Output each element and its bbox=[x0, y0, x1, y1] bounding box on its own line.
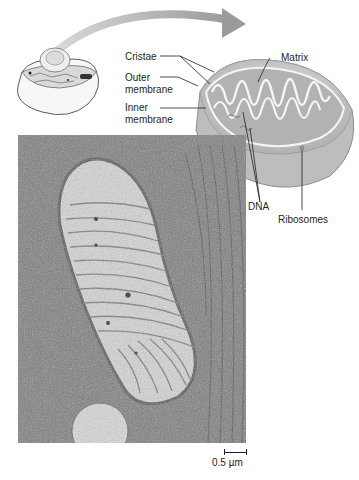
cristae-label: Cristae bbox=[125, 51, 157, 63]
outer-membrane-label-line1: Outer bbox=[125, 72, 150, 84]
inner-membrane-label-line1: Inner bbox=[125, 102, 148, 114]
electron-micrograph bbox=[18, 135, 246, 443]
scale-bar-label: 0.5 µm bbox=[212, 457, 243, 468]
inner-membrane-label-line2: membrane bbox=[125, 114, 173, 126]
dna-label: DNA bbox=[248, 201, 269, 213]
cell-illustration-icon bbox=[18, 48, 99, 115]
scale-bar-tick-left bbox=[224, 449, 225, 455]
curved-arrow-icon bbox=[58, 8, 246, 50]
matrix-label: Matrix bbox=[281, 52, 308, 64]
outer-membrane-label-line2: membrane bbox=[125, 84, 173, 96]
micrograph-render bbox=[18, 135, 246, 443]
scale-bar-line bbox=[224, 452, 246, 453]
ribosomes-label: Ribosomes bbox=[278, 214, 328, 226]
scale-bar-tick-right bbox=[246, 449, 247, 455]
